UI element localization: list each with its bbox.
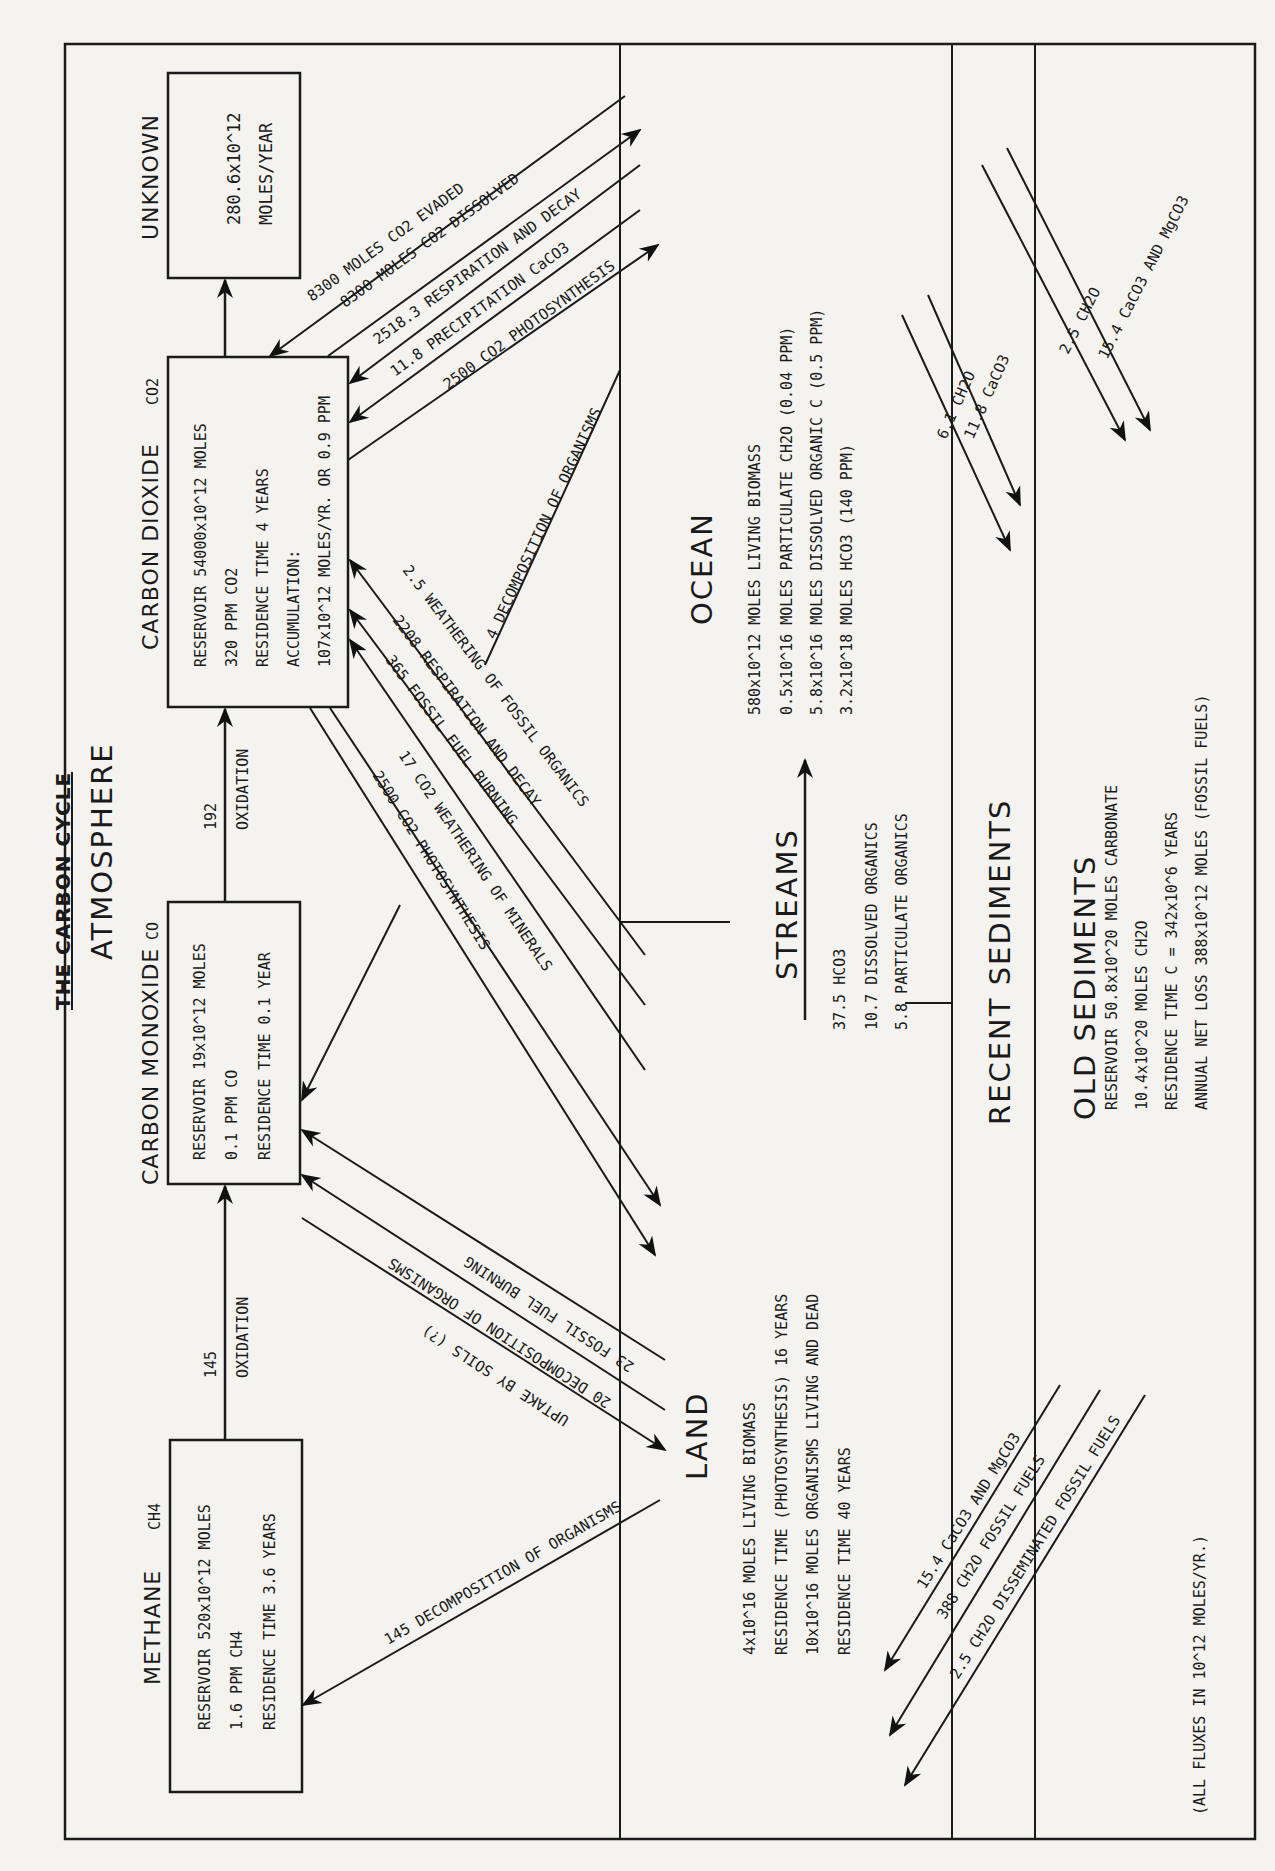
unknown-line-1: 280.6x10^12 — [224, 112, 244, 225]
carbon-cycle-diagram: THE CARBON CYCLE ATMOSPHERE LAND OCEAN S… — [0, 0, 1275, 1871]
land-line-2: RESIDENCE TIME (PHOTOSYNTHESIS) 16 YEARS — [773, 1294, 791, 1655]
section-land: LAND — [680, 1391, 714, 1480]
old-sed-ch2o-arrow — [982, 165, 1125, 440]
methane-line-2: 1.6 PPM CH4 — [228, 1631, 246, 1730]
old-sediments-line-4: ANNUAL NET LOSS 388x10^12 MOLES (FOSSIL … — [1193, 695, 1211, 1110]
fossil-fuels-arrow — [890, 1390, 1100, 1735]
unknown-label: UNKNOWN — [138, 114, 163, 240]
section-atmosphere: ATMOSPHERE — [85, 742, 119, 960]
co2-line-1: RESERVOIR 54000x10^12 MOLES — [192, 423, 210, 667]
co2-line-3: RESIDENCE TIME 4 YEARS — [254, 468, 272, 667]
co2-line-2: 320 PPM CO2 — [223, 568, 241, 667]
old-sediments-line-3: RESIDENCE TIME C = 342x10^6 YEARS — [1163, 812, 1181, 1110]
co-to-co2-value: 192 — [202, 803, 220, 830]
land-line-1: 4x10^16 MOLES LIVING BIOMASS — [741, 1402, 759, 1655]
methane-box — [170, 1440, 302, 1792]
co-line-3: RESIDENCE TIME 0.1 YEAR — [256, 951, 274, 1160]
methane-line-1: RESERVOIR 520x10^12 MOLES — [196, 1504, 214, 1730]
section-streams: STREAMS — [770, 828, 804, 980]
land-caco3-arrow — [885, 1385, 1060, 1670]
streams-line-1: 37.5 HCO3 — [831, 949, 849, 1030]
old-sediments-line-2: 10.4x10^20 MOLES CH2O — [1133, 920, 1151, 1110]
methane-formula: CH4 — [146, 1503, 164, 1530]
section-recent-sediments: RECENT SEDIMENTS — [983, 799, 1017, 1125]
co-line-2: 0.1 PPM CO — [223, 1070, 241, 1160]
decomposition-ch4-label: 145 DECOMPOSITION OF ORGANISMS — [381, 1497, 625, 1648]
old-sed-caco3-label: 15.4 CaCO3 AND MgCO3 — [1095, 193, 1193, 362]
ocean-line-4: 3.2x10^18 MOLES HCO3 (140 PPM) — [838, 444, 856, 715]
unknown-line-2: MOLES/YEAR — [256, 122, 276, 225]
ocean-decomposition-label: 4 DECOMPOSITION OF ORGANISMS — [482, 405, 605, 642]
methane-label: METHANE — [140, 1570, 165, 1685]
co-line-1: RESERVOIR 19x10^12 MOLES — [191, 943, 209, 1160]
co-to-co2-label: OXIDATION — [234, 749, 252, 830]
section-old-sediments: OLD SEDIMENTS — [1068, 855, 1102, 1120]
streams-line-3: 5.8 PARTICULATE ORGANICS — [893, 813, 911, 1030]
methane-line-3: RESIDENCE TIME 3.6 YEARS — [261, 1513, 279, 1730]
ocean-sed-ch2o-arrow — [902, 315, 1010, 550]
section-ocean: OCEAN — [685, 512, 719, 625]
old-sediments-line-1: RESERVOIR 50.8x10^20 MOLES CARBONATE — [1103, 785, 1121, 1110]
co-formula: CO — [144, 922, 162, 940]
co-input-arrow — [302, 905, 400, 1100]
ch4-to-co-label: OXIDATION — [234, 1297, 252, 1378]
streams-line-2: 10.7 DISSOLVED ORGANICS — [863, 822, 881, 1030]
land-line-4: RESIDENCE TIME 40 YEARS — [836, 1447, 854, 1655]
co2-label: CARBON DIOXIDE — [138, 443, 163, 650]
co2-line-5: 107x10^12 MOLES/YR. OR 0.9 PPM — [316, 396, 334, 667]
ocean-line-2: 0.5x10^16 MOLES PARTICULATE CH2O (0.04 P… — [778, 327, 796, 715]
ocean-line-1: 580x10^12 MOLES LIVING BIOMASS — [746, 444, 764, 715]
disseminated-fuels-arrow — [905, 1395, 1145, 1785]
land-line-3: 10x10^16 MOLES ORGANISMS LIVING AND DEAD — [804, 1294, 822, 1655]
ocean-line-3: 5.8x10^16 MOLES DISSOLVED ORGANIC C (0.5… — [808, 309, 826, 715]
co-label: CARBON MONOXIDE — [138, 948, 163, 1185]
ch4-to-co-value: 145 — [202, 1351, 220, 1378]
footnote: (ALL FLUXES IN 10^12 MOLES/YR.) — [1191, 1535, 1209, 1815]
diagram-title: THE CARBON CYCLE — [51, 772, 75, 1010]
co2-line-4: ACCUMULATION: — [285, 550, 303, 667]
co2-formula: CO2 — [144, 378, 162, 405]
decomposition-ch4-arrow — [303, 1500, 660, 1705]
